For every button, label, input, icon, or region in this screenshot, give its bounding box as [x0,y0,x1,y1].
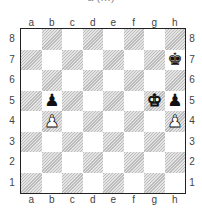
square-d4[interactable] [83,111,104,132]
black-king-icon[interactable]: ♚ [167,51,182,68]
square-a4[interactable] [21,111,42,132]
square-g7[interactable] [144,50,165,71]
file-label-d: d [83,194,104,205]
black-pawn-icon[interactable]: ♟ [167,92,182,109]
rank-label-4: 4 [186,111,198,132]
square-a5[interactable] [21,91,42,112]
square-e7[interactable] [103,50,124,71]
square-h4[interactable]: ♟ [165,111,186,132]
rank-label-5: 5 [186,91,198,112]
square-b8[interactable] [42,29,63,50]
square-g2[interactable] [144,152,165,173]
square-g6[interactable] [144,70,165,91]
file-label-b: b [42,17,63,28]
rank-label-1: 1 [6,173,18,194]
square-f1[interactable] [124,173,145,194]
square-g8[interactable] [144,29,165,50]
square-d2[interactable] [83,152,104,173]
square-e4[interactable] [103,111,124,132]
square-b5[interactable]: ♟ [42,91,63,112]
square-a1[interactable] [21,173,42,194]
file-label-g: g [144,17,165,28]
file-label-f: f [124,17,145,28]
white-pawn-icon[interactable]: ♟ [167,113,182,130]
square-c4[interactable] [62,111,83,132]
square-b4[interactable]: ♟ [42,111,63,132]
square-f7[interactable] [124,50,145,71]
square-h3[interactable] [165,132,186,153]
square-h2[interactable] [165,152,186,173]
square-a8[interactable] [21,29,42,50]
square-d6[interactable] [83,70,104,91]
square-h1[interactable] [165,173,186,194]
square-e8[interactable] [103,29,124,50]
rank-label-3: 3 [186,132,198,153]
file-label-a: a [21,17,42,28]
square-g3[interactable] [144,132,165,153]
black-pawn-icon[interactable]: ♟ [44,92,59,109]
square-h6[interactable] [165,70,186,91]
square-b1[interactable] [42,173,63,194]
white-pawn-icon[interactable]: ♟ [44,113,59,130]
square-e6[interactable] [103,70,124,91]
file-label-g: g [144,194,165,205]
square-a7[interactable] [21,50,42,71]
square-f2[interactable] [124,152,145,173]
square-b2[interactable] [42,152,63,173]
square-f6[interactable] [124,70,145,91]
square-g5[interactable]: ♚ [144,91,165,112]
square-b7[interactable] [42,50,63,71]
square-f3[interactable] [124,132,145,153]
square-g4[interactable] [144,111,165,132]
square-a3[interactable] [21,132,42,153]
square-c8[interactable] [62,29,83,50]
square-d8[interactable] [83,29,104,50]
square-c2[interactable] [62,152,83,173]
rank-label-1: 1 [186,173,198,194]
file-label-h: h [165,194,186,205]
file-label-d: d [83,17,104,28]
square-d3[interactable] [83,132,104,153]
square-e1[interactable] [103,173,124,194]
rank-label-6: 6 [186,70,198,91]
square-c5[interactable] [62,91,83,112]
square-c3[interactable] [62,132,83,153]
rank-label-3: 3 [6,132,18,153]
square-d1[interactable] [83,173,104,194]
diagram-caption: a (…) [0,0,202,3]
square-e2[interactable] [103,152,124,173]
square-g1[interactable] [144,173,165,194]
rank-label-4: 4 [6,111,18,132]
square-a2[interactable] [21,152,42,173]
white-king-icon[interactable]: ♚ [147,92,162,109]
rank-label-2: 2 [186,152,198,173]
file-label-e: e [103,194,124,205]
square-c1[interactable] [62,173,83,194]
square-f8[interactable] [124,29,145,50]
rank-label-7: 7 [6,50,18,71]
rank-label-6: 6 [6,70,18,91]
rank-label-7: 7 [186,50,198,71]
square-h5[interactable]: ♟ [165,91,186,112]
square-b3[interactable] [42,132,63,153]
file-label-c: c [62,17,83,28]
square-h7[interactable]: ♚ [165,50,186,71]
square-h8[interactable] [165,29,186,50]
square-c6[interactable] [62,70,83,91]
square-e3[interactable] [103,132,124,153]
rank-label-8: 8 [186,29,198,50]
square-d5[interactable] [83,91,104,112]
square-d7[interactable] [83,50,104,71]
square-c7[interactable] [62,50,83,71]
square-b6[interactable] [42,70,63,91]
file-label-h: h [165,17,186,28]
rank-label-5: 5 [6,91,18,112]
file-label-a: a [21,194,42,205]
rank-label-2: 2 [6,152,18,173]
file-label-c: c [62,194,83,205]
square-a6[interactable] [21,70,42,91]
square-e5[interactable] [103,91,124,112]
rank-label-8: 8 [6,29,18,50]
square-f4[interactable] [124,111,145,132]
square-f5[interactable] [124,91,145,112]
